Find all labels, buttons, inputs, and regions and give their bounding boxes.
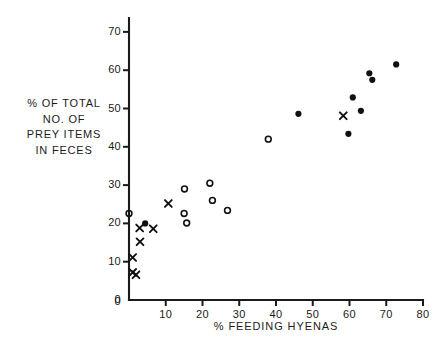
data-point-cross [129,254,136,261]
data-point-cross [340,112,347,119]
data-point-filled-circle [366,70,372,76]
data-point-cross [165,200,172,207]
data-point-cross [150,225,157,232]
y-tick-label: 70 [83,25,121,37]
x-tick-label: 50 [293,308,333,320]
x-tick-label: 20 [183,308,223,320]
x-tick-label: 10 [146,308,186,320]
data-points [126,61,399,278]
data-point-open-circle [184,220,190,226]
data-point-filled-circle [350,94,356,100]
y-tick-label: 30 [83,178,121,190]
data-point-open-circle [265,136,271,142]
data-point-cross [136,225,143,232]
x-tick-label: 60 [330,308,370,320]
data-point-open-circle [181,211,187,217]
data-point-filled-circle [345,131,351,137]
data-point-filled-circle [295,111,301,117]
data-point-cross [137,238,144,245]
x-tick-label: 40 [256,308,296,320]
x-axis-label: % FEEDING HYENAS [129,320,423,332]
axes [129,18,423,300]
data-point-filled-circle [393,61,399,67]
plot-canvas [0,0,447,350]
y-tick-label: 60 [83,63,121,75]
scatter-plot-figure: % OF TOTAL NO. OF PREY ITEMS IN FECES % … [0,0,447,350]
data-point-open-circle [182,186,188,192]
data-point-filled-circle [358,108,364,114]
x-tick-label: 80 [403,308,443,320]
y-tick-label: 20 [83,216,121,228]
data-point-filled-circle [369,77,375,83]
data-point-open-circle [210,198,216,204]
y-axis-label-line-2: NO. OF [8,112,120,128]
axis-ticks [123,32,423,306]
x-tick-label: 30 [219,308,259,320]
data-point-open-circle [207,180,213,186]
data-point-open-circle [225,207,231,213]
y-tick-label: 50 [83,102,121,114]
x-tick-label: 0 [83,295,121,307]
y-tick-label: 10 [83,255,121,267]
y-tick-label: 40 [83,140,121,152]
data-point-cross [133,271,140,278]
x-tick-label: 70 [366,308,406,320]
